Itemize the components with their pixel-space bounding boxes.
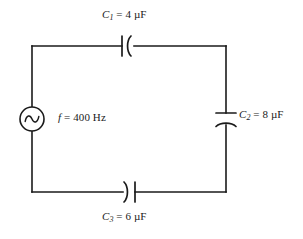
capacitor-icon-c1 xyxy=(122,36,131,56)
label-source-frequency: f = 400 Hz xyxy=(58,111,106,124)
label-c3: C3 = 6 µF xyxy=(102,210,147,226)
label-c3-subscript: 3 xyxy=(109,215,113,224)
label-c1: C1 = 4 µF xyxy=(102,8,147,24)
label-source-symbol: f xyxy=(58,111,61,123)
label-source-equals: = xyxy=(64,111,70,123)
label-c1-value: 4 µF xyxy=(125,8,146,20)
ac-source-icon xyxy=(20,107,44,131)
label-source-value: 400 Hz xyxy=(73,111,106,123)
label-c1-subscript: 1 xyxy=(109,13,113,22)
label-c2-equals: = xyxy=(253,108,259,120)
label-c1-equals: = xyxy=(116,8,122,20)
label-c2-subscript: 2 xyxy=(246,113,250,122)
label-c2-value: 8 µF xyxy=(262,108,283,120)
capacitor-icon-c3 xyxy=(124,182,135,202)
label-c3-equals: = xyxy=(116,210,122,222)
label-c2: C2 = 8 µF xyxy=(239,108,284,124)
circuit-diagram: C1 = 4 µF C2 = 8 µF C3 = 6 µF f = 400 Hz xyxy=(0,0,303,239)
label-c3-value: 6 µF xyxy=(125,210,146,222)
